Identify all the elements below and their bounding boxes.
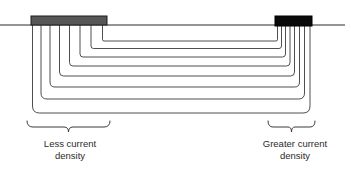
- flux-line-8: [103, 25, 278, 41]
- wide-electrode: [31, 16, 107, 25]
- flux-line-group: [33, 25, 311, 113]
- caption-greater-line-1: Greater current: [243, 138, 347, 150]
- caption-less-line-2: density: [17, 150, 123, 162]
- flux-line-4: [60, 25, 295, 76]
- caption-greater-line-2: density: [243, 150, 347, 162]
- brace-greater-current-density: [268, 121, 315, 132]
- narrow-electrode: [275, 16, 312, 26]
- flux-line-3: [50, 25, 300, 87]
- caption-greater-current-density: Greater current density: [243, 138, 347, 161]
- flux-line-1: [33, 25, 311, 113]
- flux-line-7: [91, 25, 282, 49]
- current-density-diagram: Less current density Greater current den…: [0, 0, 351, 169]
- flux-line-2: [41, 25, 305, 99]
- caption-less-line-1: Less current: [17, 138, 123, 150]
- brace-less-current-density: [27, 121, 110, 132]
- caption-less-current-density: Less current density: [17, 138, 123, 161]
